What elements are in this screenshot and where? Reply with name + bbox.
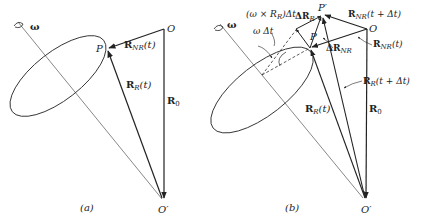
- label-deltaRNR-b: ΔRNR: [326, 44, 352, 55]
- label-R0-b-sub: 0: [377, 108, 381, 116]
- orbit-ellipse-a: [0, 21, 118, 130]
- panel-b: [198, 15, 372, 198]
- label-omega-cross-main: (ω × R: [246, 9, 277, 19]
- label-deltaRNR-sub: NR: [340, 47, 351, 55]
- label-RNR-tdt-b: RNR(t + Δt): [348, 10, 401, 21]
- label-R0-a: R0: [167, 96, 180, 108]
- label-RNR-t-sub: NR: [380, 43, 391, 51]
- vector-R0-b: [366, 29, 367, 198]
- label-RR-tdt-b: RR(t + Δt): [363, 77, 410, 88]
- label-RNR-a: RNR(t): [124, 40, 156, 52]
- label-RR-t-b: RR(t): [305, 104, 330, 116]
- caption-b: (b): [285, 203, 299, 213]
- label-deltaRNR-symbol: ΔR: [326, 43, 340, 53]
- label-deltaRR-symbol: ΔR: [295, 11, 309, 21]
- label-RNR-t-arg: (t): [392, 39, 403, 49]
- label-omega-dt-b: ω Δt: [253, 27, 273, 36]
- label-RNR-t-b: RNR(t): [373, 40, 403, 51]
- caption-a: (a): [80, 203, 94, 213]
- point-P-label-a: P: [96, 44, 103, 54]
- label-RR-tdt-arg: (t + Δt): [376, 76, 410, 86]
- label-deltaRR-b: ΔRR: [295, 12, 315, 23]
- label-RR-a: RR(t): [126, 80, 151, 92]
- label-omega-cross-b: (ω × RR)Δt: [246, 10, 296, 21]
- point-Oprime-label-a: O′: [158, 205, 168, 215]
- omega-rotation-icon-b: [214, 25, 223, 30]
- vector-omega-cross-b: [296, 29, 310, 48]
- label-RR-a-arg: (t): [140, 79, 152, 90]
- label-R0-a-sub: 0: [175, 100, 179, 108]
- label-RNR-a-arg: (t): [144, 39, 156, 50]
- point-Oprime-label-b: O′: [361, 205, 371, 215]
- label-deltaRR-sub: R: [309, 15, 314, 23]
- label-omega-cross-tail: )Δt: [282, 9, 296, 19]
- point-O-label-b: O: [369, 24, 377, 34]
- label-RNR-tdt-sub: NR: [355, 13, 366, 21]
- point-P-label-b: P: [310, 32, 317, 42]
- omega-label-a: ω: [30, 22, 40, 32]
- label-R0-b: R0: [369, 104, 382, 116]
- vector-RR-t-b: [311, 50, 365, 198]
- omega-label-b: ω: [227, 20, 237, 30]
- label-RR-t-arg: (t): [319, 103, 331, 114]
- diagram-canvas: [0, 0, 422, 223]
- point-Pprime-label-b: P′: [318, 3, 327, 13]
- label-RNR-tdt-arg: (t + Δt): [367, 9, 401, 19]
- vector-RR-a: [108, 51, 162, 198]
- point-O-label-a: O: [167, 24, 175, 34]
- label-RNR-a-sub: NR: [132, 44, 143, 52]
